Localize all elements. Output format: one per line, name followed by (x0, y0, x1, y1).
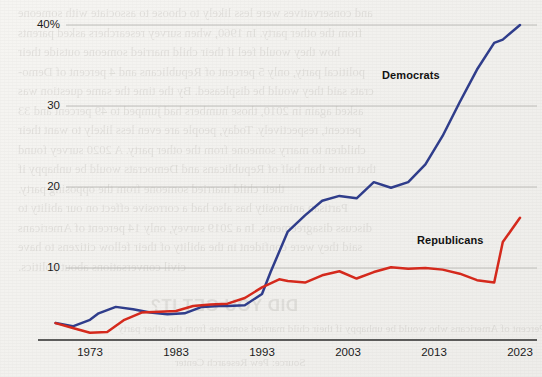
x-tick-label: 1973 (60, 346, 120, 358)
series-annotation-republicans: Republicans (417, 234, 484, 246)
x-tick-label: 2003 (318, 346, 378, 358)
y-tick-label: 30 (0, 99, 66, 111)
x-tick-label: 1993 (232, 346, 292, 358)
series-annotation-democrats: Democrats (382, 69, 440, 81)
x-tick-label: 1983 (146, 346, 206, 358)
chart-container: and conservatives were less likely to ch… (0, 0, 542, 377)
y-tick-label: 10 (0, 261, 66, 273)
y-tick-label: 40% (0, 18, 66, 30)
x-tick-label: 2023 (490, 346, 542, 358)
chart-labels: 40%302010197319831993200320132023Democra… (0, 0, 542, 377)
y-tick-label: 20 (0, 180, 66, 192)
x-tick-label: 2013 (404, 346, 464, 358)
